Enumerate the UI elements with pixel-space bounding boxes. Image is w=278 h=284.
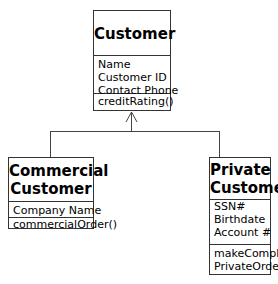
attribute-name: Name (98, 58, 170, 71)
class-commercial-customer-attributes: Company Name (9, 202, 93, 218)
class-private-customer-title: Private Customer (210, 158, 270, 200)
class-customer-operations: creditRating() (94, 94, 170, 108)
attribute-birthdate: Birthdate (214, 213, 270, 226)
class-private-name-line1: Private (210, 161, 270, 179)
operation-commercial-order: commercialOrder() (13, 218, 93, 231)
connector-horizontal (50, 131, 220, 132)
class-private-customer: Private Customer SSN# Birthdate Account … (209, 157, 271, 275)
class-commercial-customer: Commercial Customer Company Name commerc… (8, 157, 94, 229)
attribute-ssn: SSN# (214, 200, 270, 213)
class-customer-name: Customer (94, 25, 175, 43)
class-customer: Customer Name Customer ID Contact Phone … (93, 10, 171, 111)
class-private-customer-operations: makeComplaint() PrivateOrder() (210, 245, 270, 273)
class-private-name-line2: Customer (210, 179, 270, 197)
class-commercial-name-line1: Commercial (9, 162, 93, 180)
generalization-arrow-icon (125, 111, 138, 123)
class-private-customer-attributes: SSN# Birthdate Account # (210, 200, 270, 245)
class-customer-title: Customer (94, 11, 170, 56)
operation-private-order: PrivateOrder() (214, 260, 270, 273)
attribute-account: Account # (214, 226, 270, 239)
connector-vertical-private (219, 131, 220, 157)
class-customer-attributes: Name Customer ID Contact Phone (94, 56, 170, 94)
operation-credit-rating: creditRating() (98, 95, 170, 108)
attribute-company-name: Company Name (13, 204, 93, 217)
class-commercial-customer-title: Commercial Customer (9, 158, 93, 202)
class-commercial-name-line2: Customer (9, 180, 93, 198)
class-commercial-customer-operations: commercialOrder() (9, 218, 93, 231)
connector-vertical-commercial (50, 131, 51, 157)
operation-make-complaint: makeComplaint() (214, 247, 270, 260)
attribute-customer-id: Customer ID (98, 71, 170, 84)
